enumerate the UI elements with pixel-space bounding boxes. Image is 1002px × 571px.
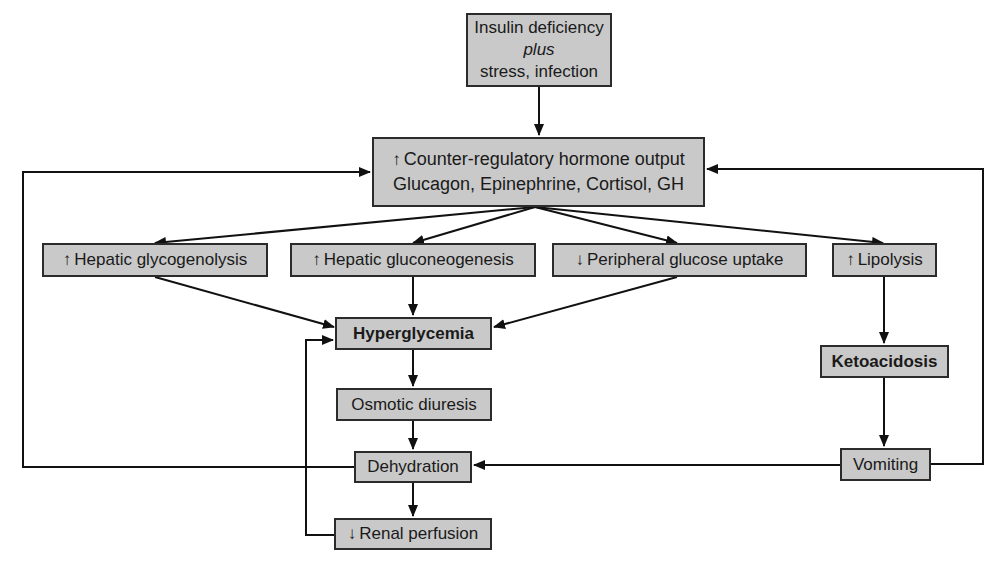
dka-pathophysiology-flowchart: Insulin deficiency plus stress, infectio…: [0, 0, 1002, 571]
node-glycogenolysis: ↑ Hepatic glycogenolysis: [42, 243, 268, 277]
glycogenolysis-label: Hepatic glycogenolysis: [74, 249, 247, 271]
trigger-line2: plus: [523, 39, 554, 61]
renal-perfusion-label: Renal perfusion: [359, 523, 478, 545]
down-arrow-icon: ↓: [575, 249, 584, 271]
up-arrow-icon: ↑: [846, 249, 855, 271]
node-gluconeogenesis: ↑ Hepatic gluconeogenesis: [290, 243, 536, 277]
lipolysis-label: Lipolysis: [858, 249, 923, 271]
node-lipolysis: ↑ Lipolysis: [832, 243, 937, 277]
node-renal-perfusion: ↓ Renal perfusion: [334, 518, 492, 550]
trigger-line1: Insulin deficiency: [474, 17, 603, 39]
glucose-uptake-label: Peripheral glucose uptake: [587, 249, 784, 271]
node-counter-regulatory: ↑Counter-regulatory hormone output Gluca…: [372, 137, 705, 207]
gluconeogenesis-label: Hepatic gluconeogenesis: [324, 249, 514, 271]
up-arrow-icon: ↑: [312, 249, 321, 271]
counter-regulatory-line1: ↑Counter-regulatory hormone output: [392, 147, 685, 172]
trigger-line3: stress, infection: [480, 61, 598, 83]
node-ketoacidosis: Ketoacidosis: [820, 345, 949, 378]
hyperglycemia-label: Hyperglycemia: [353, 323, 474, 345]
node-vomiting: Vomiting: [840, 448, 931, 481]
up-arrow-icon: ↑: [392, 150, 401, 169]
counter-regulatory-line2: Glucagon, Epinephrine, Cortisol, GH: [393, 172, 684, 197]
vomiting-label: Vomiting: [853, 454, 918, 476]
node-osmotic-diuresis: Osmotic diuresis: [336, 388, 492, 421]
dehydration-label: Dehydration: [367, 456, 459, 478]
osmotic-diuresis-label: Osmotic diuresis: [351, 394, 477, 416]
node-trigger: Insulin deficiency plus stress, infectio…: [466, 13, 612, 87]
down-arrow-icon: ↓: [348, 523, 357, 545]
node-hyperglycemia: Hyperglycemia: [335, 317, 492, 350]
up-arrow-icon: ↑: [63, 249, 72, 271]
node-glucose-uptake: ↓ Peripheral glucose uptake: [552, 243, 807, 277]
ketoacidosis-label: Ketoacidosis: [832, 351, 938, 373]
node-dehydration: Dehydration: [354, 451, 472, 483]
